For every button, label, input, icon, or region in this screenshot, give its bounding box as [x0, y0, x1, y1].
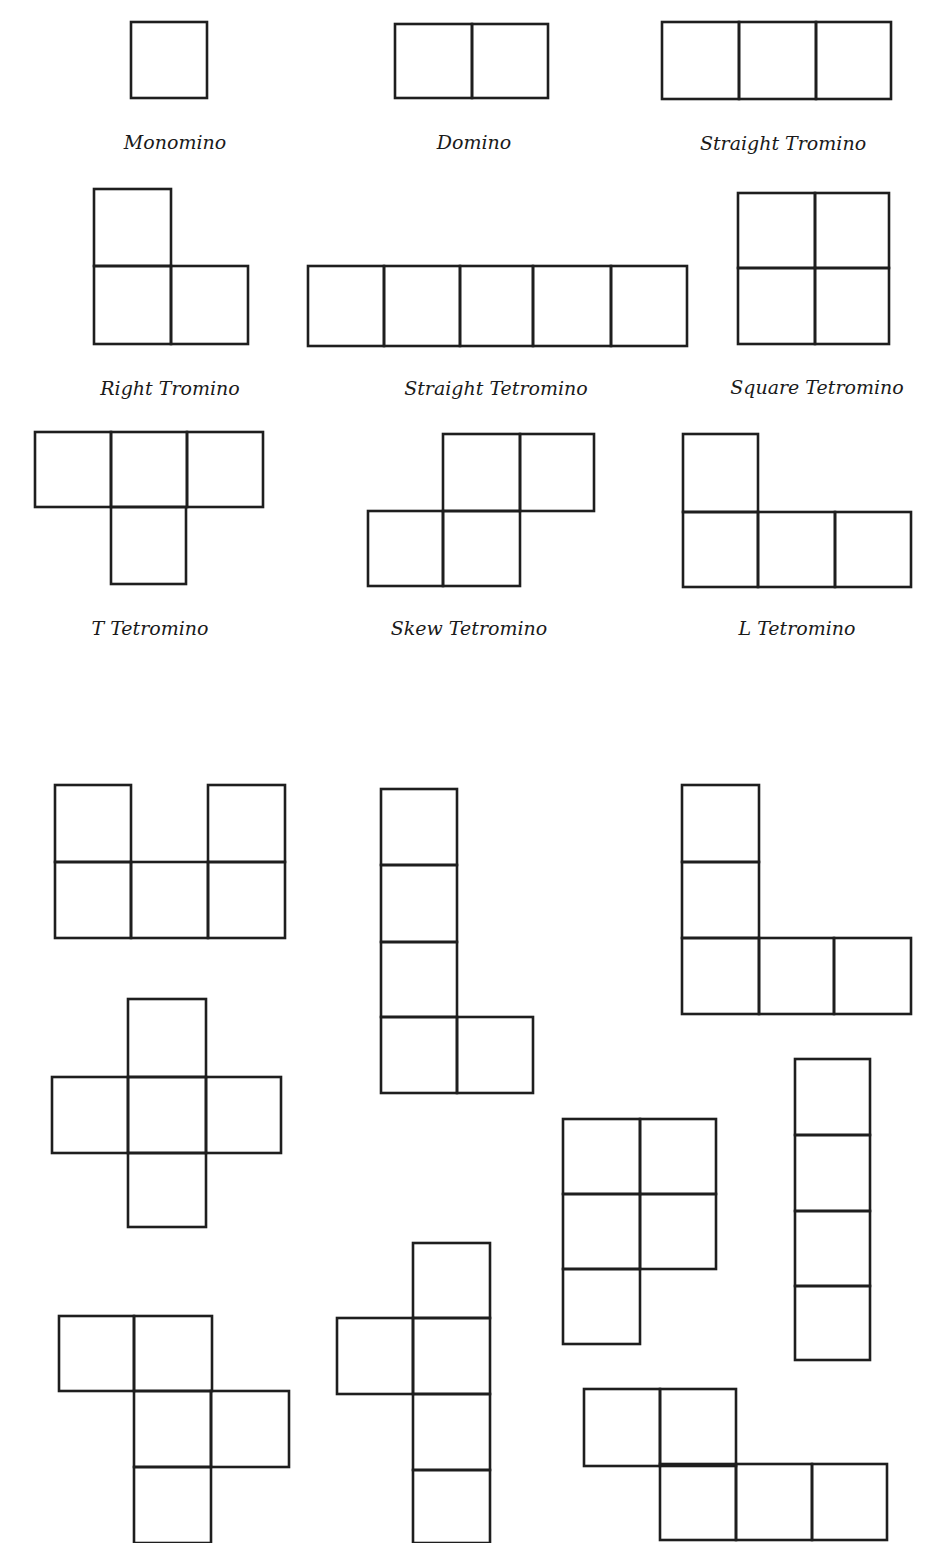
cell-square [208, 862, 285, 938]
cell-square [206, 1077, 281, 1153]
cell-square [682, 938, 759, 1014]
cell-square [413, 1394, 490, 1470]
cell-square [381, 1017, 457, 1093]
y-pentomino-shape [337, 1243, 490, 1543]
cell-square [128, 999, 206, 1077]
l-tetromino-label: L Tetromino [738, 617, 855, 639]
cell-square [413, 1318, 490, 1394]
cell-square [52, 1077, 128, 1153]
cell-square [640, 1194, 716, 1269]
skew-tetromino-label: Skew Tetromino [391, 617, 547, 639]
cell-square [640, 1119, 716, 1194]
cell-square [660, 1389, 736, 1466]
cell-square [111, 432, 187, 507]
cell-square [795, 1059, 870, 1135]
cell-square [208, 785, 285, 862]
straight-tetromino-shape [308, 266, 687, 346]
cell-square [520, 434, 594, 511]
cell-square [337, 1318, 413, 1394]
cell-square [662, 22, 739, 99]
cell-square [795, 1211, 870, 1286]
straight-tromino-label: Straight Tromino [700, 132, 866, 154]
cell-square [611, 266, 687, 346]
cell-square [35, 432, 111, 507]
cell-square [815, 268, 889, 344]
square-tetromino-shape [738, 193, 889, 344]
cell-square [171, 266, 248, 344]
cell-square [308, 266, 384, 346]
domino-shape [395, 24, 548, 98]
straight-tetromino-label: Straight Tetromino [404, 377, 588, 399]
l-tetromino-shape [683, 434, 911, 587]
cell-square [128, 1077, 206, 1153]
cell-square [413, 1243, 490, 1318]
cell-square [795, 1135, 870, 1211]
cell-square [457, 1017, 533, 1093]
cell-square [55, 785, 131, 862]
cell-square [134, 1316, 212, 1391]
t-tetromino-label: T Tetromino [91, 617, 208, 639]
cell-square [134, 1467, 211, 1543]
cell-square [739, 22, 816, 99]
cell-square [759, 938, 834, 1014]
x-pentomino-shape [52, 999, 281, 1227]
cell-square [368, 511, 443, 586]
cell-square [94, 189, 171, 266]
cell-square [443, 511, 520, 586]
cell-square [55, 862, 131, 938]
cell-square [834, 938, 911, 1014]
right-tromino-shape [94, 189, 248, 344]
skew-tetromino-shape [368, 434, 594, 586]
t-tetromino-shape [35, 432, 263, 584]
cell-square [815, 193, 889, 268]
cell-square [381, 865, 457, 942]
n-pentomino-shape [584, 1389, 887, 1540]
cell-square [738, 268, 815, 344]
i-pentomino-shape [795, 1059, 870, 1360]
cell-square [795, 1286, 870, 1360]
cell-square [472, 24, 548, 98]
cell-square [683, 512, 758, 587]
cell-square [381, 789, 457, 865]
cell-square [816, 22, 891, 99]
cell-square [460, 266, 533, 346]
cell-square [738, 193, 815, 268]
cell-square [584, 1389, 660, 1466]
cell-square [758, 512, 835, 587]
f-pentomino-shape [59, 1316, 289, 1543]
cell-square [533, 266, 611, 346]
u-pentomino-shape [55, 785, 285, 938]
cell-square [563, 1119, 640, 1194]
cell-square [131, 862, 208, 938]
cell-square [395, 24, 472, 98]
cell-square [682, 785, 759, 862]
cell-square [94, 266, 171, 344]
v-pentomino-shape [682, 785, 911, 1014]
cell-square [660, 1464, 736, 1540]
cell-square [683, 434, 758, 512]
monomino-label: Monomino [124, 131, 226, 153]
cell-square [736, 1464, 812, 1540]
cell-square [381, 942, 457, 1017]
cell-square [384, 266, 460, 346]
shapes-layer [0, 0, 935, 1543]
cell-square [682, 862, 759, 938]
l-pentomino-shape [381, 789, 533, 1093]
straight-tromino-shape [662, 22, 891, 99]
cell-square [812, 1464, 887, 1540]
cell-square [563, 1269, 640, 1344]
cell-square [563, 1194, 640, 1269]
cell-square [59, 1316, 134, 1391]
cell-square [211, 1391, 289, 1467]
cell-square [128, 1153, 206, 1227]
cell-square [134, 1391, 211, 1467]
square-tetromino-label: Square Tetromino [730, 376, 903, 398]
right-tromino-label: Right Tromino [100, 377, 239, 399]
cell-square [443, 434, 520, 511]
polyomino-diagram: MonominoDominoStraight TrominoRight Trom… [0, 0, 935, 1543]
monomino-shape [131, 22, 207, 98]
cell-square [413, 1470, 490, 1543]
cell-square [187, 432, 263, 507]
domino-label: Domino [437, 131, 511, 153]
cell-square [131, 22, 207, 98]
